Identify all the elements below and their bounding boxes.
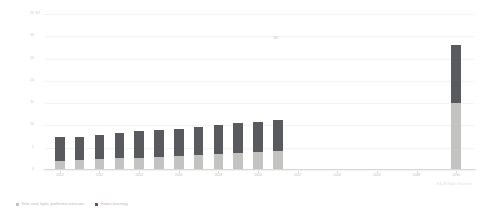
y-axis-tick-label: 0: [32, 168, 34, 171]
x-axis-tick-label: 2014: [135, 174, 142, 178]
x-axis-tick-label: 2030: [452, 174, 459, 178]
bar-segment[interactable]: [55, 137, 65, 160]
legend-item-label: Solar, wind, hydro, geothermal and ocean: [22, 203, 85, 207]
bar-segment[interactable]: [154, 130, 164, 157]
y-axis-tick-label: 30: [30, 35, 34, 38]
bar-group[interactable]: [134, 131, 144, 170]
bar-group[interactable]: [154, 130, 164, 170]
bar-segment[interactable]: [75, 137, 85, 161]
gridline: [44, 81, 474, 82]
bar-group[interactable]: [253, 122, 263, 170]
y-axis-tick-label: 15: [30, 101, 34, 104]
bar-group[interactable]: [214, 125, 224, 170]
gridline: [44, 14, 474, 15]
bar-group[interactable]: [75, 137, 85, 170]
bar-group[interactable]: [451, 45, 461, 170]
y-axis-tick-label: 20: [30, 79, 34, 82]
x-axis-tick-label: 2016: [175, 174, 182, 178]
x-axis-tick-label: 2020: [254, 174, 261, 178]
chart-annotation: EJ: [274, 36, 278, 40]
x-axis-tick-label: 2010: [56, 174, 63, 178]
bar-segment[interactable]: [253, 122, 263, 152]
bar-segment[interactable]: [214, 154, 224, 170]
bar-segment[interactable]: [174, 129, 184, 156]
bar-group[interactable]: [115, 133, 125, 170]
bar-segment[interactable]: [273, 151, 283, 170]
bar-segment[interactable]: [95, 135, 105, 160]
legend-item[interactable]: Modern bioenergy: [95, 203, 128, 207]
bar-segment[interactable]: [214, 125, 224, 154]
bar-segment[interactable]: [194, 155, 204, 170]
x-axis-tick-label: 2022: [294, 174, 301, 178]
y-axis-tick-label: 35: [30, 12, 34, 15]
bar-segment[interactable]: [174, 156, 184, 170]
bar-segment[interactable]: [273, 120, 283, 151]
bar-group[interactable]: [174, 129, 184, 170]
legend-item[interactable]: Solar, wind, hydro, geothermal and ocean: [16, 203, 84, 207]
gridline: [44, 59, 474, 60]
bar-group[interactable]: [233, 123, 243, 170]
gridline: [44, 103, 474, 104]
legend-swatch-icon: [16, 203, 19, 206]
x-axis-tick-label: 2028: [413, 174, 420, 178]
x-axis-baseline: [44, 169, 476, 170]
legend-swatch-icon: [95, 203, 98, 206]
plot-area: [44, 14, 474, 170]
bar-group[interactable]: [194, 127, 204, 170]
bar-segment[interactable]: [115, 133, 125, 158]
bar-segment[interactable]: [233, 153, 243, 170]
bar-segment[interactable]: [451, 103, 461, 170]
legend-item-label: Modern bioenergy: [101, 203, 128, 207]
bar-segment[interactable]: [134, 131, 144, 157]
bar-segment[interactable]: [451, 45, 461, 103]
bar-segment[interactable]: [253, 152, 263, 170]
chart-figure: EJ 05101520253035 2010201220142016201820…: [0, 0, 481, 215]
x-axis-tick-label: 2024: [334, 174, 341, 178]
copyright-notice: IEA. All Rights Reserved.: [436, 183, 472, 186]
x-axis-tick-label: 2012: [96, 174, 103, 178]
bar-segment[interactable]: [154, 157, 164, 170]
bar-group[interactable]: [95, 135, 105, 170]
bar-segment[interactable]: [233, 123, 243, 153]
bar-group[interactable]: [55, 137, 65, 170]
y-axis-tick-label: 25: [30, 57, 34, 60]
bar-segment[interactable]: [194, 127, 204, 155]
x-axis-tick-labels: 2010201220142016201820202022202420262028…: [44, 171, 476, 183]
x-axis-tick-label: 2018: [215, 174, 222, 178]
y-axis-tick-label: 10: [30, 124, 34, 127]
gridline: [44, 36, 474, 37]
chart-legend: Solar, wind, hydro, geothermal and ocean…: [16, 203, 128, 207]
x-axis-tick-label: 2026: [373, 174, 380, 178]
y-axis-tick-labels: 05101520253035: [0, 14, 42, 170]
bar-group[interactable]: [273, 120, 283, 170]
y-axis-tick-label: 5: [32, 146, 34, 149]
